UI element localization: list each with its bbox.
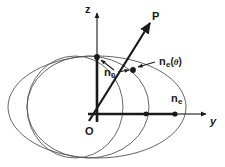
ne-theta-close-paren: ) — [179, 56, 182, 67]
origin-label: O — [85, 126, 94, 137]
n-ordinary-subscript: 0 — [111, 71, 116, 80]
point-p-label: P — [152, 11, 159, 22]
n-ordinary-base: n — [104, 66, 111, 78]
n-extraordinary-subscript: e — [178, 97, 183, 106]
index-ellipsoid-figure: z y O P n0 ne ne(θ) — [0, 0, 225, 167]
ray-intersection-dot — [130, 67, 136, 73]
diagram-canvas — [0, 0, 225, 167]
ellipse-y-intercept-dot — [172, 111, 177, 116]
circle-y-intercept-dot — [144, 112, 149, 117]
ne-theta-base: n — [159, 55, 166, 67]
n-extraordinary-theta-label: ne(θ) — [159, 56, 182, 69]
z-vertex-dot — [94, 54, 100, 60]
n-extraordinary-label: ne — [171, 93, 182, 106]
y-axis-label: y — [210, 116, 216, 127]
z-axis-label: z — [85, 4, 91, 15]
n-extraordinary-base: n — [171, 92, 178, 104]
n-ordinary-label: n0 — [104, 67, 115, 80]
